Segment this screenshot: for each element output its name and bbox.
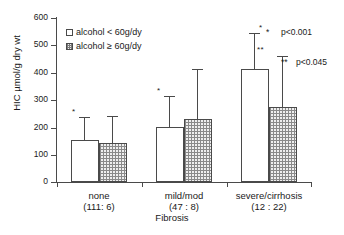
x-category-none: none (111: 6): [56, 190, 142, 212]
pvalue-note-one-text: p<0.001: [281, 28, 312, 37]
x-tick-2: [227, 183, 228, 187]
bar-chart: HIC µmol/g dry wt 600 500 400 300 200 10…: [0, 0, 344, 235]
significance-mark-severe-alcohol-high: **: [257, 46, 264, 54]
x-category-none-label: none: [56, 190, 142, 201]
y-tick-label-600: 600: [20, 13, 48, 22]
y-tick-label-300: 300: [20, 95, 48, 104]
bar-mildmod-alcohol-low: [156, 127, 184, 182]
x-category-severe-count: (12 : 22): [226, 201, 312, 212]
x-category-mildmod-label: mild/mod: [141, 190, 227, 201]
error-cap-none-alcohol-high: [107, 116, 118, 117]
significance-mark-none-alcohol-low: *: [72, 108, 76, 116]
x-tick-3: [311, 183, 312, 187]
significance-mark-severe-alcohol-low: *: [259, 24, 263, 32]
y-tick-200: [51, 128, 56, 129]
y-tick-label-200: 200: [20, 123, 48, 132]
pvalue-note-one-marker: *: [266, 28, 269, 37]
significance-mark-mildmod-alcohol-low: *: [157, 87, 161, 95]
x-category-none-count: (111: 6): [56, 201, 142, 212]
x-category-mildmod-count: (47 : 8): [141, 201, 227, 212]
x-category-mildmod: mild/mod (47 : 8): [141, 190, 227, 212]
y-tick-300: [51, 100, 56, 101]
x-axis-line: [56, 182, 312, 183]
x-tick-1: [142, 183, 143, 187]
y-tick-label-500: 500: [20, 40, 48, 49]
bar-none-alcohol-high: [99, 143, 127, 182]
y-tick-label-0: 0: [20, 177, 48, 186]
y-tick-100: [51, 155, 56, 156]
y-tick-500: [51, 45, 56, 46]
y-tick-400: [51, 73, 56, 74]
error-cap-mildmod-alcohol-high: [192, 69, 203, 70]
error-bar-none-alcohol-high: [112, 117, 113, 143]
error-bar-mildmod-alcohol-low: [169, 97, 170, 127]
y-tick-0: [51, 182, 56, 183]
plot-area: * * * **: [57, 18, 312, 182]
error-cap-severe-alcohol-low: [249, 33, 260, 34]
error-bar-severe-alcohol-low: [254, 34, 255, 69]
error-bar-mildmod-alcohol-high: [197, 70, 198, 119]
bar-mildmod-alcohol-high: [184, 119, 212, 182]
x-axis-title: Fibrosis: [0, 213, 344, 223]
error-cap-none-alcohol-low: [79, 117, 90, 118]
y-tick-600: [51, 18, 56, 19]
bar-none-alcohol-low: [71, 140, 99, 182]
bar-severe-alcohol-high: [269, 107, 297, 182]
x-category-severe: severe/cirrhosis (12 : 22): [226, 190, 312, 212]
pvalue-note-two-text: p<0.045: [296, 58, 327, 67]
error-cap-mildmod-alcohol-low: [164, 96, 175, 97]
pvalue-note-two-marker: **: [281, 58, 288, 67]
bar-severe-alcohol-low: [241, 69, 269, 182]
y-tick-label-400: 400: [20, 68, 48, 77]
error-bar-none-alcohol-low: [84, 117, 85, 140]
x-category-severe-label: severe/cirrhosis: [226, 190, 312, 201]
y-tick-label-100: 100: [20, 150, 48, 159]
x-tick-0: [57, 183, 58, 187]
